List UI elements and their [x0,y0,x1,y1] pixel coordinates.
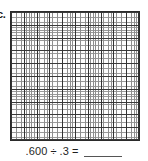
hundredths-decimal-grid[interactable] [10,11,140,141]
equation-line: .600 ÷ .3 = [0,143,148,159]
answer-blank-input[interactable] [84,145,122,157]
division-operator-icon: ÷ [50,145,56,158]
equals-sign: = [72,145,79,158]
equation-dividend: .600 [26,145,48,158]
problem-label: c. [0,7,10,21]
equation-divisor: .3 [60,145,69,158]
worksheet-problem-item: c. .600 ÷ .3 = [0,0,148,161]
